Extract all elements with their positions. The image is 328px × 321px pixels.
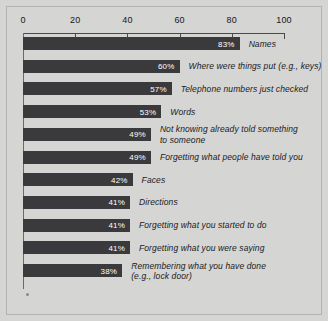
bar: 41% — [23, 196, 130, 209]
bar-value-label: 57% — [150, 84, 167, 93]
chart-figure: 020406080100 83%Names60%Where were thing… — [0, 0, 328, 321]
bar-category-label: Telephone numbers just checked — [181, 84, 308, 95]
x-axis-tick-label: 100 — [276, 15, 292, 25]
stray-mark-icon — [26, 293, 29, 296]
bar-category-label: Names — [249, 38, 276, 49]
bar-value-label: 49% — [129, 153, 146, 162]
bar-row: 83%Names — [7, 37, 323, 50]
bar-row: 49%Not knowing already told something to… — [7, 128, 323, 141]
x-axis-tick-label: 60 — [174, 15, 184, 25]
bar: 83% — [23, 37, 240, 50]
bar-value-label: 53% — [140, 107, 157, 116]
x-axis-tick-label: 0 — [20, 15, 25, 25]
bar-category-label: Directions — [139, 197, 178, 208]
bar-category-label: Faces — [142, 174, 166, 185]
bar: 41% — [23, 241, 130, 254]
bar-category-label: Forgetting what people have told you — [160, 152, 303, 163]
chart-frame: 020406080100 83%Names60%Where were thing… — [6, 6, 322, 315]
bar-category-label: Words — [170, 106, 195, 117]
bar: 41% — [23, 219, 130, 232]
bar: 49% — [23, 151, 151, 164]
bar: 49% — [23, 128, 151, 141]
bar-category-label: Forgetting what you were saying — [139, 243, 264, 254]
bar-row: 60%Where were things put (e.g., keys) — [7, 60, 323, 73]
bar-value-label: 38% — [101, 266, 118, 275]
bar-row: 41%Directions — [7, 196, 323, 209]
bar-row: 57%Telephone numbers just checked — [7, 82, 323, 95]
bar: 60% — [23, 60, 180, 73]
bar-row: 38%Remembering what you have done (e.g.,… — [7, 264, 323, 277]
x-axis-tick-label: 20 — [70, 15, 80, 25]
bar-row: 53%Words — [7, 105, 323, 118]
bar-row: 49%Forgetting what people have told you — [7, 151, 323, 164]
bar-value-label: 41% — [108, 243, 125, 252]
bar-row: 42%Faces — [7, 173, 323, 186]
bar: 42% — [23, 173, 133, 186]
bar-row: 41%Forgetting what you were saying — [7, 241, 323, 254]
x-axis-tick-label: 40 — [122, 15, 132, 25]
bar-category-label: Where were things put (e.g., keys) — [189, 61, 322, 72]
bar: 38% — [23, 264, 122, 277]
bar-value-label: 83% — [218, 39, 235, 48]
x-axis-tick-label: 80 — [227, 15, 237, 25]
plot-area: 83%Names60%Where were things put (e.g., … — [7, 33, 323, 316]
bar-category-label: Remembering what you have done (e.g., lo… — [131, 260, 266, 281]
bar: 57% — [23, 82, 172, 95]
bar-value-label: 41% — [108, 198, 125, 207]
bar: 53% — [23, 105, 161, 118]
bar-value-label: 60% — [158, 62, 175, 71]
bar-category-label: Not knowing already told something to so… — [160, 124, 298, 145]
bar-category-label: Forgetting what you started to do — [139, 220, 267, 231]
bar-row: 41%Forgetting what you started to do — [7, 219, 323, 232]
bar-value-label: 49% — [129, 130, 146, 139]
bar-value-label: 42% — [111, 175, 128, 184]
bar-value-label: 41% — [108, 221, 125, 230]
